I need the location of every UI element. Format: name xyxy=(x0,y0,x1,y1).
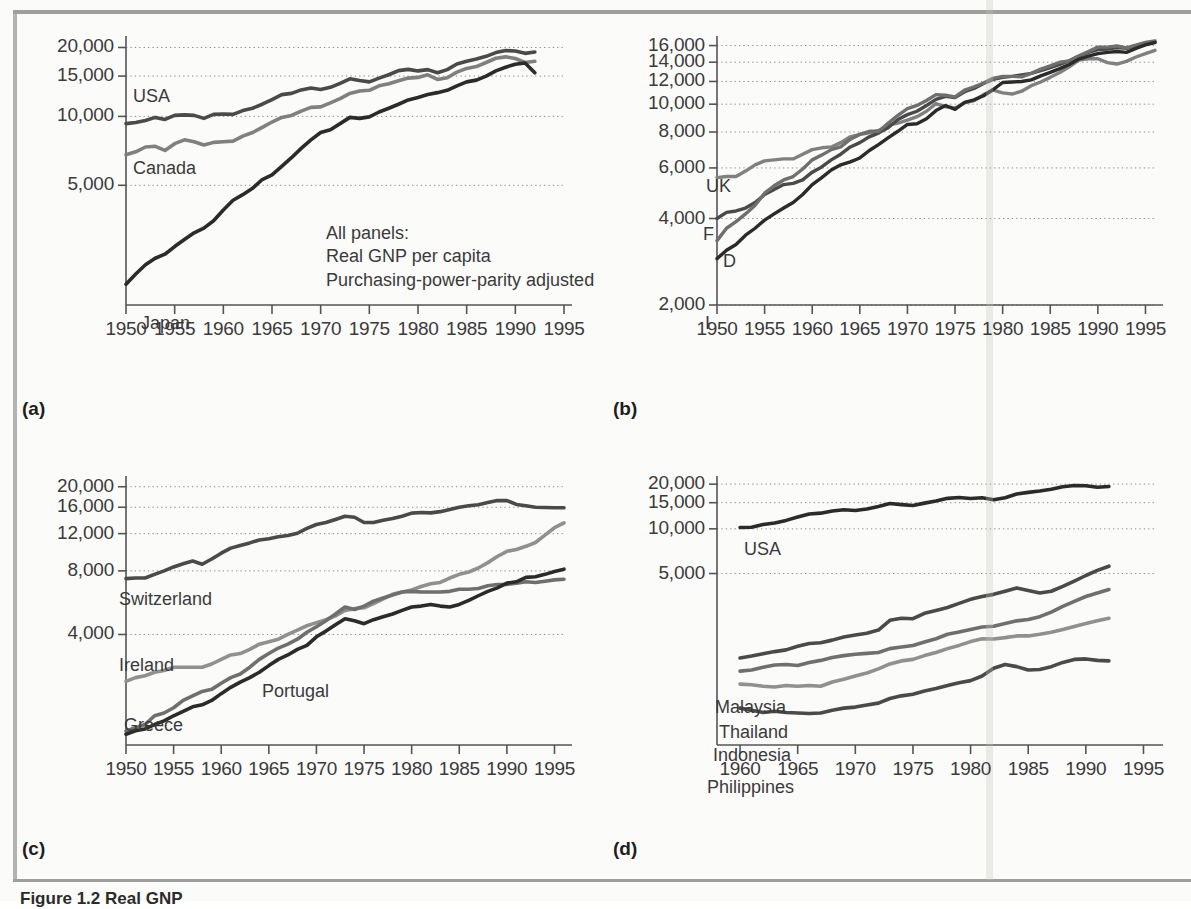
panel-b-label-d: D xyxy=(723,251,736,272)
panel-c-label-greece: Greece xyxy=(124,715,183,736)
panel-a-note: All panels: Real GNP per capita Purchasi… xyxy=(326,222,594,292)
panel-c-ytick-label: 8,000 xyxy=(0,559,114,581)
panel-d-xtick-label: 1970 xyxy=(829,758,881,780)
panel-a-ytick-label: 20,000 xyxy=(0,35,114,57)
panel-c-ytick-label: 20,000 xyxy=(0,475,114,497)
panel-a-plot xyxy=(100,30,580,360)
figure-frame-bottom-rule xyxy=(13,879,1191,882)
panel-b-ytick-label: 2,000 xyxy=(589,293,705,315)
panel-a-xtick-label: 1965 xyxy=(246,318,298,340)
panel-c-xtick-label: 1965 xyxy=(243,758,295,780)
panel-a-xtick-label: 1960 xyxy=(197,318,249,340)
panel-b-xtick-label: 1950 xyxy=(691,318,743,340)
panel-d-label-malaysia: Malaysia xyxy=(715,697,786,718)
panel-b-ytick-label: 12,000 xyxy=(589,69,705,91)
panel-a-xtick-label: 1955 xyxy=(149,318,201,340)
note-line-1: All panels: xyxy=(326,222,594,245)
panel-b-label-uk: UK xyxy=(706,176,731,197)
panel-a-label-canada: Canada xyxy=(133,158,196,179)
panel-a-label-usa: USA xyxy=(133,86,170,107)
panel-d-id: (d) xyxy=(613,838,637,860)
panel-d-xtick-label: 1995 xyxy=(1117,758,1169,780)
panel-c-xtick-label: 1995 xyxy=(528,758,580,780)
panel-c-xtick-label: 1990 xyxy=(481,758,533,780)
note-line-3: Purchasing-power-parity adjusted xyxy=(326,269,594,292)
panel-c-xtick-label: 1960 xyxy=(195,758,247,780)
panel-c-xtick-label: 1980 xyxy=(386,758,438,780)
panel-d-xtick-label: 1960 xyxy=(714,758,766,780)
panel-c-id: (c) xyxy=(22,838,45,860)
panel-b-xtick-label: 1960 xyxy=(786,318,838,340)
panel-b-plot xyxy=(691,30,1171,360)
panel-a-xtick-label: 1970 xyxy=(295,318,347,340)
panel-b-xtick-label: 1990 xyxy=(1072,318,1124,340)
panel-d-xtick-label: 1985 xyxy=(1002,758,1054,780)
panel-b-xtick-label: 1970 xyxy=(881,318,933,340)
panel-c-ytick-label: 12,000 xyxy=(0,522,114,544)
panel-a-xtick-label: 1975 xyxy=(343,318,395,340)
panel-a-xtick-label: 1985 xyxy=(441,318,493,340)
panel-c-plot xyxy=(100,470,580,800)
panel-b-id: (b) xyxy=(613,398,637,420)
panel-d-ytick-label: 5,000 xyxy=(589,562,705,584)
panel-c-xtick-label: 1975 xyxy=(338,758,390,780)
panel-d-ytick-label: 20,000 xyxy=(589,472,705,494)
panel-a-ytick-label: 5,000 xyxy=(0,173,114,195)
panel-d-ytick-label: 10,000 xyxy=(589,517,705,539)
figure-frame-top-rule xyxy=(13,10,1191,14)
panel-d-xtick-label: 1980 xyxy=(945,758,997,780)
note-line-2: Real GNP per capita xyxy=(326,245,594,268)
panel-b-ytick-label: 8,000 xyxy=(589,120,705,142)
panel-c-xtick-label: 1955 xyxy=(148,758,200,780)
panel-c-label-portugal: Portugal xyxy=(262,681,329,702)
panel-d-xtick-label: 1965 xyxy=(772,758,824,780)
panel-d-label-usa: USA xyxy=(744,539,781,560)
panel-b-xtick-label: 1995 xyxy=(1119,318,1171,340)
panel-b-xtick-label: 1980 xyxy=(977,318,1029,340)
panel-a-xtick-label: 1980 xyxy=(392,318,444,340)
panel-a-xtick-label: 1950 xyxy=(100,318,152,340)
panel-c-label-switzerland: Switzerland xyxy=(119,589,212,610)
panel-a-xtick-label: 1990 xyxy=(489,318,541,340)
panel-b-xtick-label: 1985 xyxy=(1024,318,1076,340)
panel-c-label-ireland: Ireland xyxy=(119,655,174,676)
panel-d-label-thailand: Thailand xyxy=(719,722,788,743)
panel-c-xtick-label: 1985 xyxy=(433,758,485,780)
panel-d-xtick-label: 1975 xyxy=(887,758,939,780)
panel-c-xtick-label: 1950 xyxy=(100,758,152,780)
panel-a-id: (a) xyxy=(22,398,45,420)
panel-a-ytick-label: 15,000 xyxy=(0,64,114,86)
figure-caption: Figure 1.2 Real GNP xyxy=(20,889,183,909)
panel-a-ytick-label: 10,000 xyxy=(0,104,114,126)
panel-d-label-philippines: Philippines xyxy=(707,777,794,798)
panel-c-xtick-label: 1970 xyxy=(290,758,342,780)
panel-b-xtick-label: 1975 xyxy=(929,318,981,340)
panel-b-xtick-label: 1955 xyxy=(739,318,791,340)
panel-d-xtick-label: 1990 xyxy=(1060,758,1112,780)
panel-b-ytick-label: 6,000 xyxy=(589,156,705,178)
panel-a-xtick-label: 1995 xyxy=(538,318,590,340)
panel-b-ytick-label: 16,000 xyxy=(589,34,705,56)
panel-c-ytick-label: 4,000 xyxy=(0,622,114,644)
panel-b-ytick-label: 4,000 xyxy=(589,207,705,229)
panel-c-ytick-label: 16,000 xyxy=(0,495,114,517)
panel-b-ytick-label: 10,000 xyxy=(589,92,705,114)
panel-b-xtick-label: 1965 xyxy=(834,318,886,340)
